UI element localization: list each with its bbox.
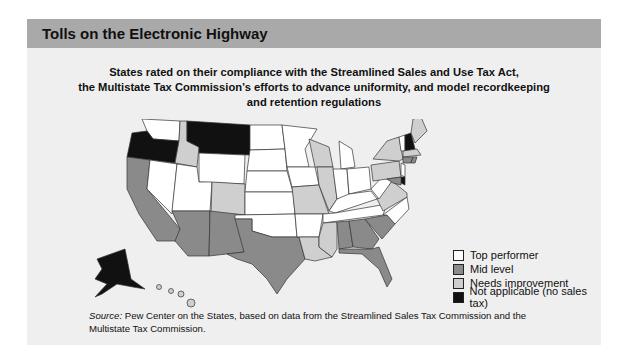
state-hi	[157, 285, 196, 308]
state-co	[211, 182, 245, 215]
figure-header: Tolls on the Electronic Highway	[27, 19, 601, 48]
subtitle-line: the Multistate Tax Commission’s efforts …	[27, 80, 601, 95]
legend-label: Mid level	[470, 263, 513, 275]
legend-label: Top performer	[470, 249, 538, 261]
state-ar	[295, 214, 323, 237]
figure-panel: Tolls on the Electronic Highway States r…	[27, 19, 601, 345]
legend-item-mid-level: Mid level	[453, 262, 601, 276]
state-nd	[250, 125, 285, 150]
state-ny	[373, 137, 403, 161]
state-oh	[347, 167, 371, 194]
source-text: Pew Center on the States, based on data …	[89, 310, 526, 334]
state-de	[401, 177, 405, 185]
legend-label: Not applicable (no sales tax)	[470, 285, 601, 309]
state-ks	[245, 192, 295, 215]
us-states-map	[87, 119, 467, 309]
state-ne	[245, 171, 293, 192]
state-mi	[339, 141, 355, 169]
map-subtitle: States rated on their compliance with th…	[27, 65, 601, 110]
legend-item-top-performer: Top performer	[453, 248, 601, 262]
state-fl	[339, 247, 392, 287]
swatch-white-icon	[453, 250, 464, 261]
state-me	[411, 119, 427, 143]
subtitle-line: States rated on their compliance with th…	[27, 65, 601, 80]
source-note: Source: Pew Center on the States, based …	[89, 309, 569, 335]
swatch-dark-gray-icon	[453, 264, 464, 275]
map-legend: Top performer Mid level Needs improvemen…	[453, 248, 601, 304]
state-nj	[401, 163, 405, 177]
state-ia	[287, 167, 319, 187]
state-sd	[247, 149, 287, 171]
state-ak	[95, 249, 145, 297]
legend-item-not-applicable: Not applicable (no sales tax)	[453, 290, 601, 304]
swatch-black-icon	[453, 292, 464, 303]
swatch-light-gray-icon	[453, 278, 464, 289]
subtitle-line: and retention regulations	[27, 95, 601, 110]
state-wi	[309, 139, 333, 167]
source-label: Source:	[89, 310, 122, 321]
state-wy	[199, 153, 245, 184]
figure-title: Tolls on the Electronic Highway	[42, 25, 268, 42]
